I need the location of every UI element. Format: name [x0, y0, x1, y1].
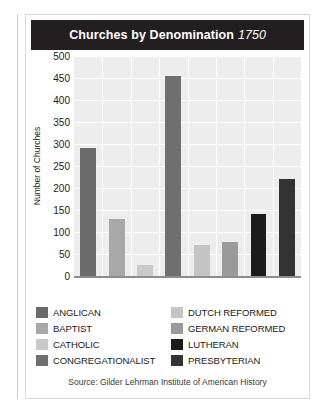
plot-region [74, 56, 301, 278]
chart-legend: ANGLICANDUTCH REFORMEDBAPTISTGERMAN REFO… [36, 304, 309, 368]
chart-area: Number of Churches 050100150200250300350… [32, 56, 301, 294]
bar-congregationalist [165, 76, 181, 276]
legend-swatch-icon [36, 339, 48, 350]
bar-slot [188, 56, 216, 276]
left-rule-divider [17, 14, 18, 399]
bar-slot [102, 56, 130, 276]
legend-swatch-icon [171, 307, 183, 318]
y-axis-tick: 0 [64, 271, 70, 282]
legend-label: PRESBYTERIAN [188, 355, 260, 366]
y-axis-tick: 200 [53, 183, 70, 194]
page-title-year: 1750 [238, 28, 266, 42]
bar-slot [216, 56, 244, 276]
bar-german-reformed [222, 242, 238, 276]
y-axis-tick: 150 [53, 205, 70, 216]
bar-slot [131, 56, 159, 276]
bar-catholic [137, 265, 153, 276]
bar-dutch-reformed [194, 245, 210, 276]
legend-label: BAPTIST [53, 323, 92, 334]
chart-card: Churches by Denomination 1750 Number of … [25, 14, 310, 399]
y-axis-tick: 350 [53, 117, 70, 128]
legend-item-dutch-reformed: DUTCH REFORMED [171, 304, 309, 320]
source-note: Source: Gilder Lehrman Institute of Amer… [26, 371, 309, 398]
bar-slot [244, 56, 272, 276]
legend-item-congregationalist: CONGREGATIONALIST [36, 352, 169, 368]
bar-anglican [80, 148, 96, 276]
legend-item-german-reformed: GERMAN REFORMED [171, 320, 309, 336]
legend-label: DUTCH REFORMED [188, 307, 277, 318]
bar-slot [273, 56, 301, 276]
page-title: Churches by Denomination [69, 28, 234, 42]
legend-label: LUTHERAN [188, 339, 238, 350]
legend-swatch-icon [36, 355, 48, 366]
y-axis-ticks: 050100150200250300350400450500 [46, 56, 72, 276]
legend-item-presbyterian: PRESBYTERIAN [171, 352, 309, 368]
bar-slot [159, 56, 187, 276]
y-axis-tick: 500 [53, 51, 70, 62]
y-axis-label-text: Number of Churches [32, 127, 42, 205]
bar-series [74, 56, 301, 276]
legend-swatch-icon [36, 323, 48, 334]
y-axis-tick: 50 [59, 249, 70, 260]
legend-item-anglican: ANGLICAN [36, 304, 169, 320]
y-axis-tick: 400 [53, 95, 70, 106]
y-axis-tick: 300 [53, 139, 70, 150]
legend-item-lutheran: LUTHERAN [171, 336, 309, 352]
chart-title-bar: Churches by Denomination 1750 [31, 20, 304, 50]
y-axis-tick: 250 [53, 161, 70, 172]
legend-swatch-icon [171, 339, 183, 350]
bar-lutheran [251, 214, 267, 276]
legend-label: CONGREGATIONALIST [53, 355, 155, 366]
legend-label: GERMAN REFORMED [188, 323, 285, 334]
y-axis-tick: 450 [53, 73, 70, 84]
bar-presbyterian [279, 179, 295, 276]
legend-swatch-icon [171, 355, 183, 366]
legend-item-catholic: CATHOLIC [36, 336, 169, 352]
legend-swatch-icon [36, 307, 48, 318]
bar-slot [74, 56, 102, 276]
legend-label: CATHOLIC [53, 339, 100, 350]
legend-item-baptist: BAPTIST [36, 320, 169, 336]
chart-page: Churches by Denomination 1750 Number of … [0, 0, 324, 413]
y-axis-tick: 100 [53, 227, 70, 238]
source-text: Source: Gilder Lehrman Institute of Amer… [68, 377, 266, 387]
bar-baptist [109, 219, 125, 276]
legend-label: ANGLICAN [53, 307, 101, 318]
legend-swatch-icon [171, 323, 183, 334]
y-axis-label: Number of Churches [30, 56, 44, 276]
